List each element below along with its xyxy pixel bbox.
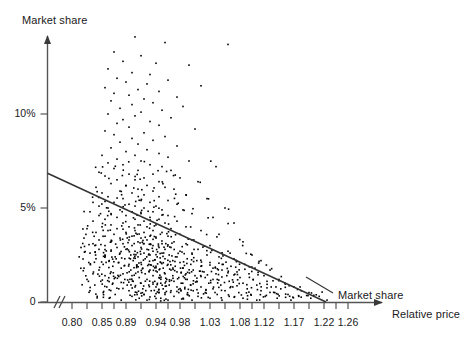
scatter-point — [162, 256, 164, 258]
scatter-point — [180, 282, 182, 284]
scatter-point — [242, 282, 244, 284]
scatter-point — [101, 273, 103, 275]
scatter-point — [200, 230, 202, 232]
scatter-point — [82, 228, 84, 230]
scatter-point — [143, 294, 145, 296]
scatter-point — [146, 279, 148, 281]
scatter-point — [162, 288, 164, 290]
scatter-point — [169, 281, 171, 283]
scatter-point — [134, 115, 136, 117]
scatter-point — [128, 173, 130, 175]
scatter-point — [106, 250, 108, 252]
scatter-point — [135, 273, 137, 275]
scatter-point — [169, 261, 171, 263]
scatter-point — [227, 223, 229, 225]
scatter-point — [113, 234, 115, 236]
scatter-point — [206, 198, 208, 200]
scatter-point — [116, 247, 118, 249]
scatter-point — [209, 245, 211, 247]
scatter-point — [318, 296, 320, 298]
scatter-point — [271, 268, 273, 270]
scatter-point — [110, 290, 112, 292]
scatter-point — [120, 251, 122, 253]
scatter-point — [171, 255, 173, 257]
scatter-point — [257, 272, 259, 274]
scatter-point — [242, 245, 244, 247]
scatter-point — [168, 284, 170, 286]
scatter-point — [142, 288, 144, 290]
scatter-point — [113, 134, 115, 136]
scatter-point — [134, 230, 136, 232]
scatter-point — [158, 247, 160, 249]
scatter-point — [155, 237, 157, 239]
scatter-point — [196, 281, 198, 283]
scatter-point — [227, 44, 229, 46]
scatter-point — [290, 299, 292, 301]
scatter-point — [120, 282, 122, 284]
scatter-point — [140, 160, 142, 162]
scatter-point — [134, 36, 136, 38]
scatter-point — [200, 259, 202, 261]
scatter-point — [135, 254, 137, 256]
scatter-point — [95, 187, 97, 189]
scatter-point — [95, 232, 97, 234]
scatter-point — [150, 264, 152, 266]
scatter-point — [103, 297, 105, 299]
scatter-point — [185, 279, 187, 281]
scatter-point — [203, 271, 205, 273]
scatter-point — [117, 277, 119, 279]
scatter-point — [149, 74, 151, 76]
scatter-point — [108, 260, 110, 262]
scatter-point — [125, 232, 127, 234]
scatter-point — [161, 181, 163, 183]
scatter-point — [300, 296, 302, 298]
scatter-point — [138, 199, 140, 201]
scatter-point — [101, 203, 103, 205]
scatter-point — [100, 244, 102, 246]
scatter-point — [218, 234, 220, 236]
scatter-points — [78, 36, 327, 302]
scatter-point — [134, 250, 136, 252]
scatter-point — [127, 242, 129, 244]
scatter-point — [280, 276, 282, 278]
scatter-point — [85, 275, 87, 277]
scatter-point — [128, 94, 130, 96]
scatter-point — [172, 275, 174, 277]
scatter-point — [88, 292, 90, 294]
scatter-point — [156, 219, 158, 221]
scatter-point — [89, 290, 91, 292]
scatter-point — [137, 241, 139, 243]
scatter-point — [85, 234, 87, 236]
scatter-point — [164, 222, 166, 224]
scatter-point — [119, 237, 121, 239]
scatter-point — [110, 224, 112, 226]
scatter-point — [95, 254, 97, 256]
scatter-point — [140, 262, 142, 264]
scatter-point — [135, 291, 137, 293]
scatter-point — [145, 290, 147, 292]
scatter-point — [133, 274, 135, 276]
scatter-point — [101, 261, 103, 263]
scatter-point — [94, 252, 96, 254]
scatter-point — [164, 258, 166, 260]
scatter-point — [122, 243, 124, 245]
scatter-point — [153, 266, 155, 268]
scatter-point — [165, 243, 167, 245]
scatter-point — [99, 275, 101, 277]
scatter-point — [130, 254, 132, 256]
scatter-point — [192, 283, 194, 285]
scatter-point — [170, 290, 172, 292]
scatter-point — [173, 188, 175, 190]
scatter-point — [150, 234, 152, 236]
scatter-point — [276, 293, 278, 295]
scatter-point — [138, 233, 140, 235]
scatter-point — [260, 294, 262, 296]
scatter-point — [169, 268, 171, 270]
scatter-point — [102, 235, 104, 237]
scatter-point — [181, 246, 183, 248]
scatter-point — [310, 297, 312, 299]
scatter-point — [192, 269, 194, 271]
scatter-point — [104, 254, 106, 256]
scatter-point — [185, 194, 187, 196]
scatter-point — [228, 296, 230, 298]
